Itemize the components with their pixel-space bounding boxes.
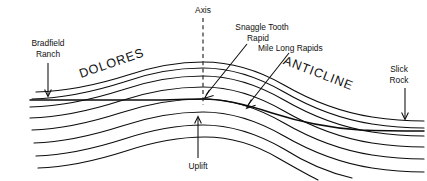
mile-long-rapids-label: Mile Long Rapids xyxy=(258,43,323,53)
snaggle-tooth-rapid-label-line1: Snaggle Tooth xyxy=(235,22,289,32)
stratum-5 xyxy=(32,99,424,159)
slick-rock-label-line2: Rock xyxy=(389,75,409,85)
anticline-cross-section-figure: Bradfield Ranch Axis Snaggle Tooth Rapid… xyxy=(0,0,427,181)
slick-rock-leader xyxy=(402,88,409,120)
snaggle-tooth-rapid-leader xyxy=(205,44,247,98)
anticline-structure-label: ANTICLINE xyxy=(281,53,355,93)
stratum-8 xyxy=(38,137,318,180)
bradfield-ranch-leader xyxy=(45,63,52,97)
bradfield-ranch-label-line2: Ranch xyxy=(36,49,61,59)
strata-group xyxy=(30,62,424,180)
dolores-formation-label: DOLORES xyxy=(77,46,146,81)
stratum-4 xyxy=(30,87,424,147)
axis-label: Axis xyxy=(195,5,211,15)
river-surface-line xyxy=(30,99,424,131)
uplift-label: Uplift xyxy=(188,161,208,171)
slick-rock-label-line1: Slick xyxy=(390,64,408,74)
snaggle-tooth-rapid-label-line2: Rapid xyxy=(247,33,269,43)
bradfield-ranch-label-line1: Bradfield xyxy=(31,38,64,48)
